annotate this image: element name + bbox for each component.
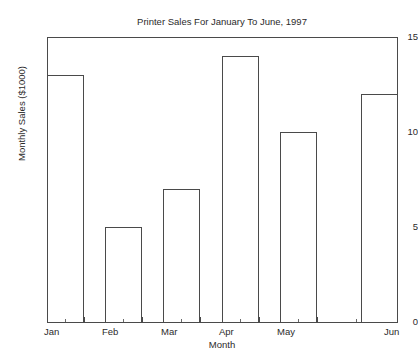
chart-title: Printer Sales For January To June, 1997 bbox=[47, 16, 397, 27]
xtick-mark-apr bbox=[222, 317, 223, 322]
xtick-mark-may-end bbox=[317, 317, 318, 322]
xtick-mark-feb-end bbox=[142, 317, 143, 322]
xtick-mark-jan-end bbox=[84, 317, 85, 322]
y-axis-label: Monthly Sales ($1000) bbox=[16, 44, 27, 184]
bar-jun bbox=[361, 94, 398, 323]
xtick-mark-mar bbox=[163, 317, 164, 322]
xtick-label-jan: Jan bbox=[44, 326, 59, 337]
xtick-label-feb: Feb bbox=[102, 326, 118, 337]
xtick-minor-jan bbox=[65, 319, 66, 322]
xtick-minor-may bbox=[298, 319, 299, 322]
bar-apr bbox=[222, 56, 259, 323]
bar-jan bbox=[47, 75, 84, 323]
ytick-label-15: 15 bbox=[390, 32, 418, 42]
xtick-minor-apr bbox=[240, 319, 241, 322]
xtick-minor-jun bbox=[356, 319, 357, 322]
xtick-mark-jun bbox=[361, 317, 362, 322]
axis-top-spine bbox=[47, 37, 398, 38]
xtick-label-may: May bbox=[277, 326, 295, 337]
bar-mar bbox=[163, 189, 200, 323]
bar-feb bbox=[105, 227, 142, 323]
xtick-mark-apr-end bbox=[259, 317, 260, 322]
xtick-label-mar: Mar bbox=[161, 326, 177, 337]
bar-chart-figure: Printer Sales For January To June, 1997 … bbox=[0, 0, 418, 362]
xtick-label-apr: Apr bbox=[219, 326, 234, 337]
x-axis-label: Month bbox=[47, 339, 397, 350]
xtick-mark-mar-end bbox=[200, 317, 201, 322]
xtick-minor-mar bbox=[181, 319, 182, 322]
xtick-mark-feb bbox=[105, 317, 106, 322]
xtick-minor-feb bbox=[123, 319, 124, 322]
bar-may bbox=[280, 132, 317, 323]
xtick-label-jun: Jun bbox=[384, 326, 399, 337]
xtick-mark-may bbox=[280, 317, 281, 322]
